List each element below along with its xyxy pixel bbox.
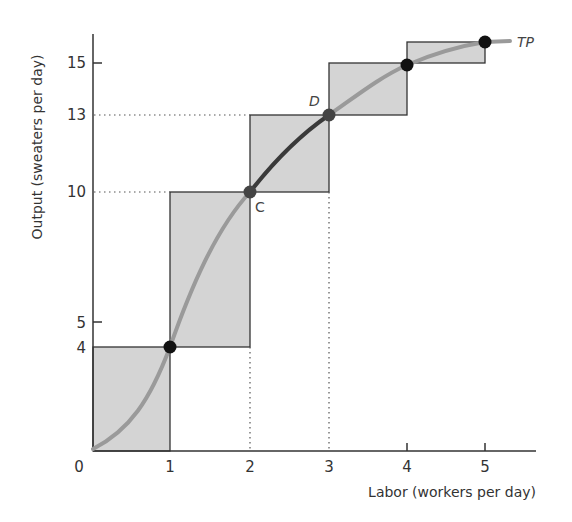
y-axis-title: Output (sweaters per day) bbox=[29, 54, 45, 239]
x-label-5: 5 bbox=[480, 458, 490, 476]
box-1 bbox=[93, 347, 170, 451]
y-label-10: 10 bbox=[67, 183, 86, 201]
x-label-1: 1 bbox=[165, 458, 175, 476]
point-4-15 bbox=[401, 59, 414, 72]
x-label-4: 4 bbox=[402, 458, 412, 476]
x-label-2: 2 bbox=[245, 458, 255, 476]
y-label-4: 4 bbox=[76, 339, 86, 357]
x-axis-title: Labor (workers per day) bbox=[368, 484, 536, 500]
y-label-15: 15 bbox=[67, 54, 86, 72]
point-5 bbox=[479, 36, 492, 49]
total-product-chart: C D TP 15 13 10 5 4 0 1 2 3 4 5 Labor (w… bbox=[0, 0, 572, 522]
label-tp: TP bbox=[517, 34, 535, 50]
point-d bbox=[323, 109, 336, 122]
origin-label: 0 bbox=[74, 458, 84, 476]
x-label-3: 3 bbox=[324, 458, 334, 476]
label-c: C bbox=[255, 199, 265, 215]
y-label-5: 5 bbox=[76, 314, 86, 332]
label-d: D bbox=[309, 93, 320, 109]
point-c bbox=[244, 186, 257, 199]
box-2 bbox=[170, 192, 250, 347]
point-1-4 bbox=[164, 341, 177, 354]
y-label-13: 13 bbox=[67, 106, 86, 124]
